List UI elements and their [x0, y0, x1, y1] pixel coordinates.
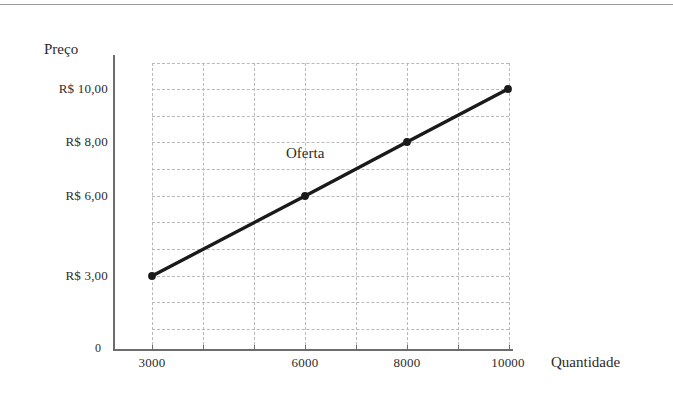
data-point-marker: [403, 138, 411, 146]
origin-label: 0: [95, 342, 101, 354]
data-point-marker: [301, 192, 309, 200]
series-annotation-oferta: Oferta: [286, 146, 324, 161]
oferta-line: [152, 89, 508, 276]
x-tick-label-8000: 8000: [394, 356, 421, 369]
y-tick-label-3: R$ 3,00: [65, 269, 108, 282]
x-tick-label-3000: 3000: [139, 356, 166, 369]
supply-curve-figure: Preço R$ 10,00 R$ 8,00 R$ 6,00 R$ 3,00 0…: [0, 0, 673, 399]
data-point-marker: [148, 272, 156, 280]
y-tick-label-6: R$ 6,00: [65, 189, 108, 202]
y-tick-label-10: R$ 10,00: [59, 82, 108, 95]
x-tick-label-6000: 6000: [292, 356, 319, 369]
x-axis-title: Quantidade: [551, 355, 620, 370]
y-axis-tick-labels: R$ 10,00 R$ 8,00 R$ 6,00 R$ 3,00: [0, 0, 108, 399]
y-tick-label-8: R$ 8,00: [65, 135, 108, 148]
data-point-marker: [504, 85, 512, 93]
x-tick-label-10000: 10000: [491, 356, 525, 369]
